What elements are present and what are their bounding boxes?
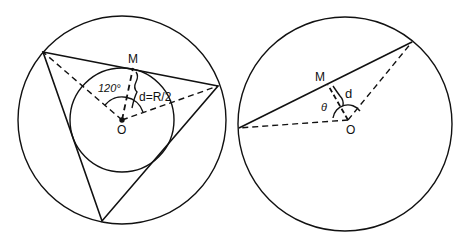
left-figure — [18, 16, 226, 224]
right-figure — [238, 17, 452, 231]
left-label-distance: d=R/2 — [139, 90, 172, 104]
right-label-theta: θ — [321, 101, 327, 113]
right-circle — [238, 17, 452, 231]
diagram-stage: M 120° d=R/2 O M θ d O — [0, 0, 462, 237]
right-chord — [239, 42, 412, 128]
right-label-o: O — [346, 123, 355, 137]
left-label-o: O — [117, 123, 126, 137]
right-label-m: M — [315, 70, 325, 84]
left-perpendicular-OM — [122, 68, 133, 120]
geometry-diagram: M 120° d=R/2 O M θ d O — [0, 0, 462, 237]
right-label-d: d — [345, 86, 352, 101]
right-radius-left — [239, 120, 348, 128]
left-center-dot — [120, 118, 124, 122]
left-label-angle: 120° — [98, 82, 121, 94]
left-label-m: M — [128, 52, 138, 66]
